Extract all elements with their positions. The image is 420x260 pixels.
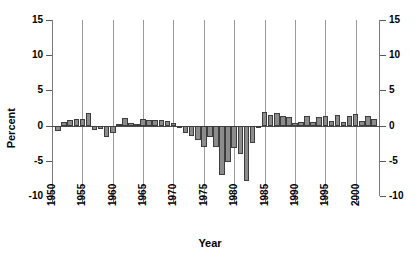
bar [140,119,146,125]
y-tick-left-10 [46,55,52,56]
bar [98,126,104,130]
y-tick-label-left--5: -5 [34,156,43,166]
bar [104,126,110,137]
bar [122,118,128,126]
bar [92,126,98,130]
bar [341,122,347,126]
bar [274,113,280,126]
x-tick-label-1990: 1990 [290,184,300,206]
y-tick-label-right-10: 10 [389,50,400,60]
bar [231,126,237,149]
y-tick-label-right-5: 5 [389,85,395,95]
bar [74,119,80,125]
bar [292,123,298,126]
y-tick-right-5 [380,90,386,91]
bar [183,126,189,134]
bar [238,126,244,154]
y-tick-label-left-5: 5 [37,85,43,95]
bar [347,116,353,126]
bar [365,116,371,126]
plot-area: 151510105500-5-5-10-10 19501955196019651… [52,20,380,196]
bar [213,126,219,148]
y-tick-label-left--10: -10 [29,191,43,201]
bar [195,126,201,140]
bar [55,126,61,132]
bar-series [52,20,380,196]
bar [256,126,262,129]
bar [152,120,158,126]
bar [225,126,231,163]
bar [61,122,67,126]
y-tick-right-0 [380,126,386,127]
bar [116,124,122,126]
y-tick-right-10 [380,55,386,56]
y-tick-left-0 [46,126,52,127]
bar [189,126,195,137]
bar [67,120,73,126]
bar [244,126,250,181]
bar [86,113,92,126]
bar [359,121,365,125]
x-tick-label-1980: 1980 [229,184,239,206]
x-tick-label-1995: 1995 [320,184,330,206]
bar [329,121,335,125]
bar [159,120,165,126]
x-tick-label-1985: 1985 [260,184,270,206]
bar [353,114,359,125]
bar [171,123,177,125]
y-tick-label-left-0: 0 [37,121,43,131]
y-tick-left--5 [46,161,52,162]
y-tick-left-15 [46,20,52,21]
x-axis-title: Year [0,238,420,249]
x-tick-label-1960: 1960 [108,184,118,206]
bar [219,126,225,175]
bar [335,115,341,126]
bar [298,122,304,126]
y-tick-label-left-15: 15 [32,15,43,25]
x-tick-label-2000: 2000 [351,184,361,206]
bar [80,119,86,126]
bar [286,117,292,125]
bar [110,126,116,134]
bar [268,115,274,126]
chart-figure: Percent 151510105500-5-5-10-10 195019551… [0,0,420,260]
bar [128,123,134,125]
y-tick-label-right--5: -5 [389,156,398,166]
x-tick-label-1970: 1970 [168,184,178,206]
bar [250,126,256,144]
y-tick-label-right-15: 15 [389,15,400,25]
bar [165,121,171,126]
y-tick-right--10 [380,196,386,197]
y-tick-label-left-10: 10 [32,50,43,60]
bar [262,112,268,125]
bar [316,117,322,125]
y-axis-title: Percent [6,108,17,148]
y-tick-label-right--10: -10 [389,191,403,201]
bar [280,116,286,126]
x-tick-label-1965: 1965 [138,184,148,206]
bar [134,124,140,126]
y-tick-label-right-0: 0 [389,121,395,131]
bar [310,122,316,126]
y-tick-right--5 [380,161,386,162]
y-tick-right-15 [380,20,386,21]
bar [371,119,377,125]
bar [304,116,310,125]
bar [201,126,207,147]
bar [323,116,329,126]
bar [177,126,183,128]
x-tick-label-1950: 1950 [47,184,57,206]
bar [146,120,152,126]
x-tick-label-1955: 1955 [77,184,87,206]
bar [207,126,213,137]
x-tick-label-1975: 1975 [199,184,209,206]
y-tick-left-5 [46,90,52,91]
